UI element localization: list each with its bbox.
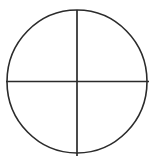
quartered-circle-figure: [0, 0, 156, 161]
diagram-canvas: [0, 0, 156, 161]
canvas-background: [0, 0, 156, 161]
